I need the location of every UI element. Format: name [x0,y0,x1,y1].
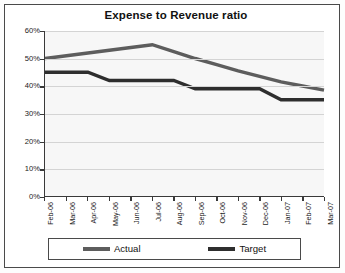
y-tick-label: 30% [2,110,40,118]
x-tick-label: Feb-06 [47,202,54,225]
y-tick-label: 40% [2,82,40,90]
gridline [45,114,324,115]
gridline [45,86,324,87]
legend-label-actual: Actual [114,244,141,254]
chart-title: Expense to Revenue ratio [56,9,296,21]
y-tick-label: 60% [2,27,40,35]
x-tick-mark [130,197,131,201]
x-tick-mark [302,197,303,201]
y-tick-label: 50% [2,55,40,63]
x-tick-mark [195,197,196,201]
chart-legend: Actual Target [48,238,301,260]
x-tick-label: Nov-06 [241,202,248,225]
x-tick-label: Oct-06 [219,202,226,224]
x-tick-mark [216,197,217,201]
x-tick-mark [109,197,110,201]
y-tick-label: 20% [2,138,40,146]
x-tick-label: Aug-06 [176,202,183,225]
legend-swatch-actual [83,247,110,251]
y-tick-label: 0% [2,193,40,201]
x-tick-mark [281,197,282,201]
gridline [45,142,324,143]
y-tick-label: 10% [2,165,40,173]
legend-label-target: Target [239,244,266,254]
x-tick-label: May-06 [112,202,119,226]
x-tick-label: Jul-06 [155,202,162,222]
x-tick-label: Jan-07 [284,202,291,224]
gridline [45,169,324,170]
plot-area [44,31,324,197]
x-tick-mark [324,197,325,201]
x-tick-label: Mar-06 [69,202,76,225]
x-tick-label: Dec-06 [262,202,269,225]
gridline [45,59,324,60]
x-tick-mark [259,197,260,201]
gridline [45,31,324,32]
legend-item-actual[interactable]: Actual [83,244,141,254]
legend-swatch-target [208,247,235,251]
x-tick-label: Mar-07 [327,202,334,225]
x-tick-mark [173,197,174,201]
x-tick-mark [152,197,153,201]
legend-item-target[interactable]: Target [208,244,266,254]
x-tick-label: Feb-07 [305,202,312,225]
x-tick-label: Sep-06 [198,202,205,225]
y-axis: 60%50%40%30%20%10%0% [0,31,40,197]
x-tick-mark [66,197,67,201]
x-tick-mark [238,197,239,201]
x-tick-mark [87,197,88,201]
x-axis: Feb-06Mar-06Apr-06May-06Jun-06Jul-06Aug-… [44,202,324,234]
x-tick-label: Jun-06 [133,202,140,224]
x-tick-label: Apr-06 [90,202,97,224]
chart-figure: Expense to Revenue ratio 60%50%40%30%20%… [0,0,345,273]
x-tick-mark [44,197,45,201]
